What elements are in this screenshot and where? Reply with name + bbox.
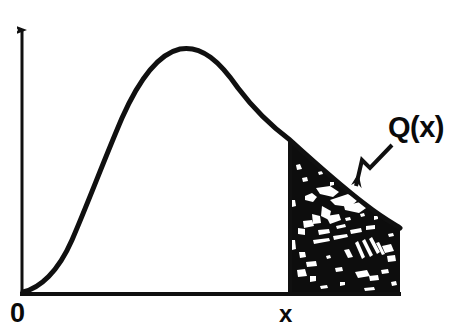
callout-arrow-icon <box>356 145 392 186</box>
x-threshold-label: x <box>279 302 292 326</box>
figure-canvas <box>0 0 461 335</box>
axis-origin-label: 0 <box>10 300 25 327</box>
probability-density-figure: 0 x Q(x) <box>0 0 461 335</box>
tail-area-label: Q(x) <box>388 113 444 142</box>
